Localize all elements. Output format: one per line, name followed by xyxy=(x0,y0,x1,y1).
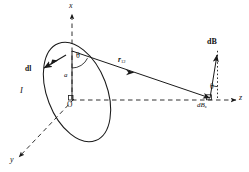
figure-canvas: x y z O I a dl θ r12 dB θ dBz xyxy=(0,0,249,172)
dB-label: dB xyxy=(207,38,217,46)
radius-label: a xyxy=(64,72,68,79)
current-label: I xyxy=(20,86,23,95)
axis-label-x: x xyxy=(69,2,73,10)
axis-label-z: z xyxy=(239,94,242,102)
theta-label-field: θ xyxy=(210,83,214,91)
dB-vector xyxy=(210,55,217,98)
dl-label: dl xyxy=(25,65,31,73)
origin-label: O xyxy=(67,101,72,109)
axis-label-y: y xyxy=(10,156,14,164)
theta-label-loop: θ xyxy=(76,52,80,60)
axis-y xyxy=(19,99,74,157)
r12-vector xyxy=(72,51,210,98)
dBz-label-subscript: z xyxy=(205,104,207,109)
dl-vector xyxy=(44,55,66,68)
r12-label: r12 xyxy=(118,56,126,65)
dBz-label-base: dB xyxy=(197,101,205,109)
r12-label-subscript: 12 xyxy=(121,59,126,64)
dBz-label: dBz xyxy=(197,102,207,109)
